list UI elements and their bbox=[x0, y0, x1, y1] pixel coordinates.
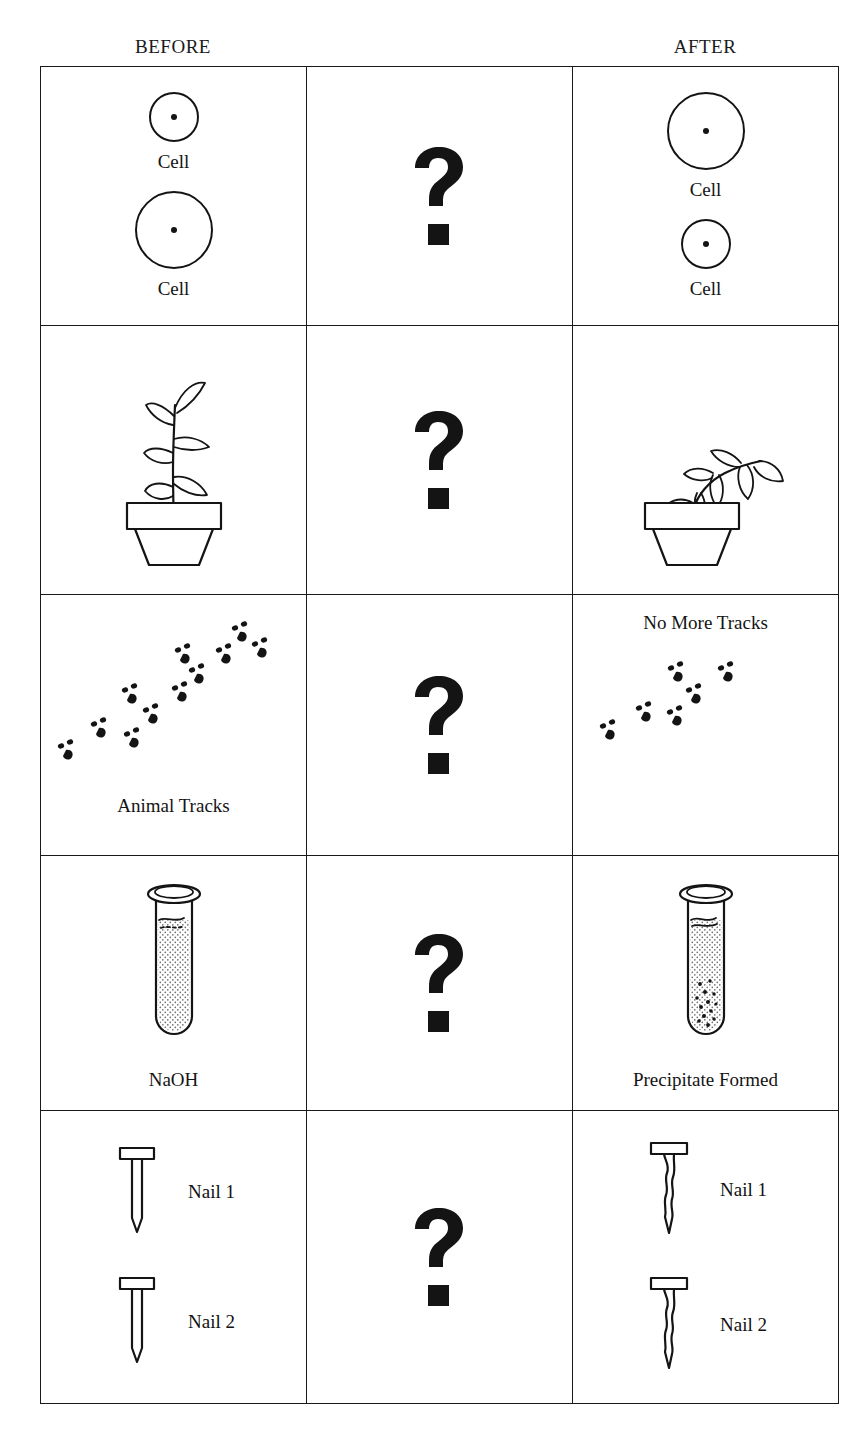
row-nails-before-cell: Nail 1 Nail 2 bbox=[41, 1111, 307, 1404]
cell-circle-icon bbox=[681, 219, 731, 269]
column-headers: BEFORE AFTER bbox=[40, 32, 838, 62]
cell-circle-icon bbox=[135, 191, 213, 269]
table-row: NaOH bbox=[41, 856, 839, 1111]
nail-clean-icon bbox=[112, 1272, 162, 1372]
animal-tracks-icon bbox=[581, 646, 831, 756]
row-nails-middle-cell bbox=[307, 1111, 573, 1404]
cell-diagram-small: Cell bbox=[681, 219, 731, 300]
naoh-label: NaOH bbox=[149, 1070, 199, 1091]
table-row: Animal Tracks No More Tracks bbox=[41, 595, 839, 856]
no-more-tracks-label: No More Tracks bbox=[643, 613, 768, 634]
cell-label: Cell bbox=[690, 180, 722, 201]
table-row: Cell Cell bbox=[41, 67, 839, 326]
question-mark-icon bbox=[307, 595, 572, 855]
nail-label: Nail 2 bbox=[188, 1311, 235, 1333]
cell-label: Cell bbox=[158, 152, 190, 173]
row-cells-after-cell: Cell Cell bbox=[573, 67, 839, 326]
question-mark-icon bbox=[307, 67, 572, 325]
row-testtube-middle-cell bbox=[307, 856, 573, 1111]
nail-clean-icon bbox=[112, 1142, 162, 1242]
nail-label: Nail 2 bbox=[720, 1314, 767, 1336]
test-tube-precipitate-icon bbox=[646, 876, 766, 1056]
cell-label: Cell bbox=[158, 279, 190, 300]
header-before: BEFORE bbox=[40, 32, 306, 62]
nail-label: Nail 1 bbox=[720, 1179, 767, 1201]
cell-label: Cell bbox=[690, 279, 722, 300]
animal-tracks-icon bbox=[49, 606, 299, 786]
cell-diagram-large: Cell bbox=[135, 191, 213, 300]
precipitate-label: Precipitate Formed bbox=[633, 1070, 778, 1091]
header-middle bbox=[306, 32, 572, 62]
wilted-plant-icon bbox=[621, 353, 791, 568]
header-after: AFTER bbox=[572, 32, 838, 62]
cell-circle-icon bbox=[149, 92, 199, 142]
cell-diagram-small: Cell bbox=[149, 92, 199, 173]
row-tracks-middle-cell bbox=[307, 595, 573, 856]
table-row bbox=[41, 326, 839, 595]
row-plant-before-cell bbox=[41, 326, 307, 595]
question-mark-icon bbox=[307, 1111, 572, 1403]
healthy-plant-icon bbox=[99, 353, 249, 568]
tracks-label: Animal Tracks bbox=[117, 796, 229, 817]
nail-label: Nail 1 bbox=[188, 1181, 235, 1203]
question-mark-icon bbox=[307, 326, 572, 594]
row-tracks-before-cell: Animal Tracks bbox=[41, 595, 307, 856]
table-row: Nail 1 Nail 2 bbox=[41, 1111, 839, 1404]
cell-diagram-large: Cell bbox=[667, 92, 745, 201]
test-tube-clear-icon bbox=[114, 876, 234, 1056]
row-plant-after-cell bbox=[573, 326, 839, 595]
row-nails-after-cell: Nail 1 Nail 2 bbox=[573, 1111, 839, 1404]
question-mark-icon bbox=[307, 856, 572, 1110]
nail-corroded-icon bbox=[644, 1137, 694, 1242]
row-cells-before-cell: Cell Cell bbox=[41, 67, 307, 326]
nail-corroded-icon bbox=[644, 1272, 694, 1377]
row-testtube-before-cell: NaOH bbox=[41, 856, 307, 1111]
row-plant-middle-cell bbox=[307, 326, 573, 595]
before-after-comparison-table: Cell Cell bbox=[40, 66, 839, 1404]
row-testtube-after-cell: Precipitate Formed bbox=[573, 856, 839, 1111]
row-cells-middle-cell bbox=[307, 67, 573, 326]
cell-circle-icon bbox=[667, 92, 745, 170]
row-tracks-after-cell: No More Tracks bbox=[573, 595, 839, 856]
